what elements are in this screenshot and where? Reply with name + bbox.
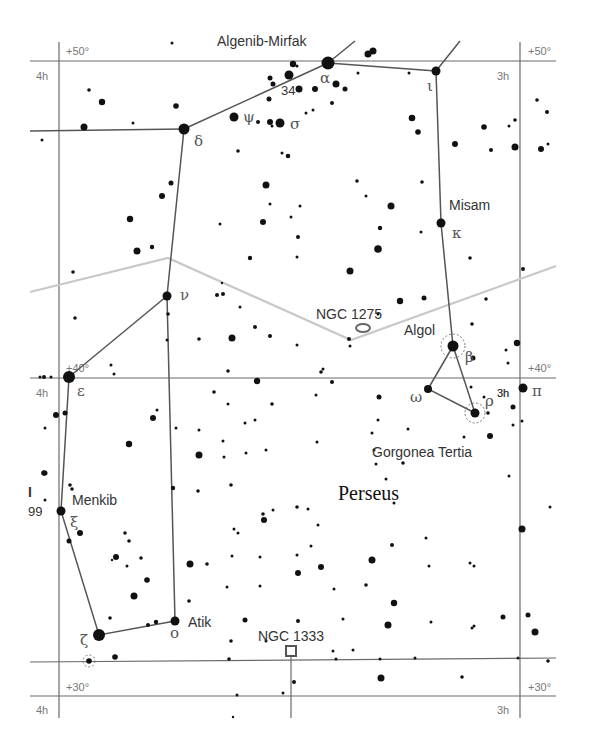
star-psi[interactable]: [230, 113, 239, 122]
label-algol: Algol: [404, 322, 435, 338]
ra-label-bottom-left: 4h: [36, 704, 48, 716]
star-nu[interactable]: [163, 292, 172, 301]
dec-label-mid-right: +40°: [528, 362, 551, 374]
edge-label-99: 99: [28, 504, 42, 519]
star-rho[interactable]: [471, 409, 480, 418]
star-zeta[interactable]: [93, 629, 105, 641]
dec-label-bottom-left: +30°: [66, 681, 89, 693]
constellation-name: Perseus: [338, 482, 399, 504]
edge-label-i: I: [28, 484, 32, 500]
star-algol-beta[interactable]: [448, 341, 459, 352]
label-alpha: α: [320, 69, 330, 87]
label-epsilon: ε: [77, 382, 85, 400]
ra-label-top-right: 3h: [497, 70, 509, 82]
label-algenib-mirfak: Algenib-Mirfak: [217, 33, 307, 49]
label-rho: ρ: [485, 392, 494, 410]
ra-label-mid-left: 4h: [36, 387, 48, 399]
label-menkib: Menkib: [72, 492, 117, 508]
ra-label-bottom-right: 3h: [497, 704, 509, 716]
label-misam: Misam: [449, 197, 490, 213]
dec-label-top-right: +50°: [528, 45, 551, 57]
label-xi: ξ: [70, 513, 78, 531]
star-epsilon[interactable]: [63, 371, 75, 383]
label-psi: ψ: [243, 108, 255, 126]
star-chart: +50° +50° 4h 3h +40° +40° 4h 3h +30° +30…: [0, 0, 590, 751]
label-nu: ν: [180, 286, 189, 304]
label-3h-rho-corner: 3h: [497, 387, 509, 399]
ra-label-top-left: 4h: [36, 70, 48, 82]
star-pi[interactable]: [519, 384, 528, 393]
label-ngc1333: NGC 1333: [258, 628, 324, 644]
label-sigma: σ: [290, 115, 300, 133]
star-xi-menkib[interactable]: [57, 507, 66, 516]
label-omega: ω: [410, 388, 422, 406]
star-kappa[interactable]: [437, 219, 446, 228]
label-omicron: ο: [170, 624, 179, 642]
label-zeta: ζ: [80, 631, 88, 649]
star-iota[interactable]: [432, 67, 441, 76]
star-alpha-mirfak[interactable]: [322, 57, 335, 70]
star-sigma[interactable]: [276, 119, 285, 128]
label-gorgonea-tertia: Gorgonea Tertia: [372, 444, 472, 460]
ngc1333-nebula-icon[interactable]: [286, 646, 296, 656]
dec-label-top-left: +50°: [66, 45, 89, 57]
dec-label-bottom-right: +30°: [528, 681, 551, 693]
label-kappa: κ: [452, 224, 462, 242]
star-omega[interactable]: [424, 385, 432, 393]
label-pi: π: [532, 382, 542, 400]
star-delta[interactable]: [179, 124, 190, 135]
label-atik: Atik: [188, 614, 212, 630]
label-iota: ι: [427, 77, 433, 95]
label-ngc1275: NGC 1275: [316, 306, 382, 322]
label-beta: β: [465, 348, 474, 366]
label-delta: δ: [194, 132, 203, 150]
label-34: 34: [281, 83, 295, 98]
